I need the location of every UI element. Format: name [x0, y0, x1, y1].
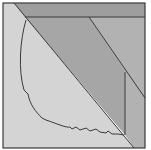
- geometric-diagram: [0, 0, 151, 150]
- diagram-canvas: [0, 0, 151, 150]
- top-band: [14, 3, 145, 17]
